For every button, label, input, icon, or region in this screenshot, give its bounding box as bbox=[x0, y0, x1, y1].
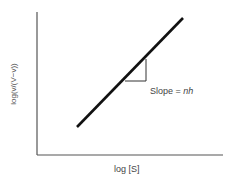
slope-annotation: Slope = nh bbox=[150, 86, 193, 96]
data-line bbox=[77, 18, 183, 127]
slope-triangle bbox=[125, 59, 146, 81]
x-axis-label: log [S] bbox=[114, 164, 140, 174]
y-axis-label: log(v/(V−v)) bbox=[9, 63, 18, 105]
hill-plot bbox=[0, 0, 236, 182]
